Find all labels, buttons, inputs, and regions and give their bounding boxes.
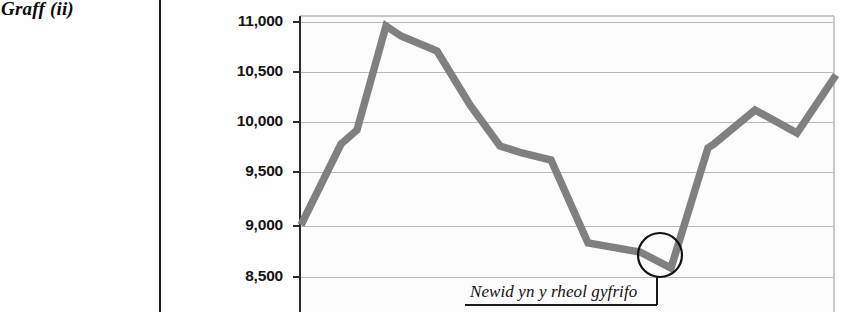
y-tick-label-10500: 10,500 bbox=[209, 62, 283, 80]
figure-container: Graff (ii) bbox=[0, 0, 841, 312]
line-chart bbox=[0, 0, 841, 312]
y-tick-label-10000: 10,000 bbox=[209, 112, 283, 130]
y-tick-label-9500: 9,500 bbox=[209, 162, 283, 180]
annotation-caption: Newid yn y rheol gyfrifo bbox=[470, 282, 637, 302]
y-axis-ticks bbox=[293, 22, 300, 277]
chart-svg bbox=[0, 0, 841, 312]
y-tick-label-11000: 11,000 bbox=[209, 12, 283, 30]
y-tick-label-8500: 8,500 bbox=[209, 267, 283, 285]
y-tick-label-9000: 9,000 bbox=[209, 216, 283, 234]
